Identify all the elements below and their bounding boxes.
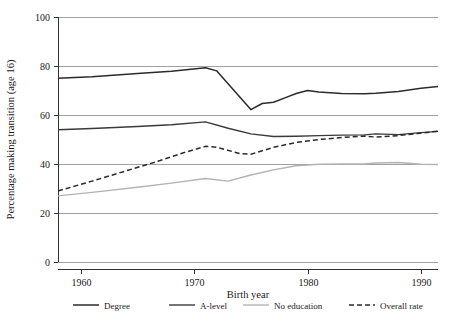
x-axis-title: Birth year (227, 289, 270, 300)
series-line-no-education (58, 163, 438, 196)
y-tick-label-0: 0 (45, 257, 50, 268)
x-tick-label-1960: 1960 (72, 277, 92, 288)
x-tick-label-1990: 1990 (412, 277, 432, 288)
y-axis-title: Percentage making transition (age 16) (5, 59, 17, 219)
y-axis: 020406080100 (35, 12, 59, 268)
y-tick-label-40: 40 (40, 159, 50, 170)
legend-label-no-education: No education (274, 301, 323, 311)
series-group (58, 68, 438, 196)
gridlines (58, 18, 438, 263)
y-tick-label-80: 80 (40, 61, 50, 72)
y-tick-label-20: 20 (40, 208, 50, 219)
legend-label-a-level: A-level (200, 301, 227, 311)
series-line-degree (58, 68, 438, 110)
series-line-a-level (58, 122, 438, 137)
x-tick-label-1970: 1970 (185, 277, 205, 288)
line-chart-canvas: 0204060801001960197019801990Birth yearPe… (0, 0, 452, 323)
series-line-overall-rate (58, 131, 438, 191)
legend-label-overall-rate: Overall rate (380, 301, 423, 311)
x-tick-label-1980: 1980 (299, 277, 319, 288)
chart-figure: 0204060801001960197019801990Birth yearPe… (0, 0, 452, 323)
y-tick-label-60: 60 (40, 110, 50, 121)
chart-legend: DegreeA-levelNo educationOverall rate (73, 301, 423, 311)
x-axis: 1960197019801990 (58, 270, 438, 289)
y-tick-label-100: 100 (35, 12, 50, 23)
legend-label-degree: Degree (104, 301, 130, 311)
